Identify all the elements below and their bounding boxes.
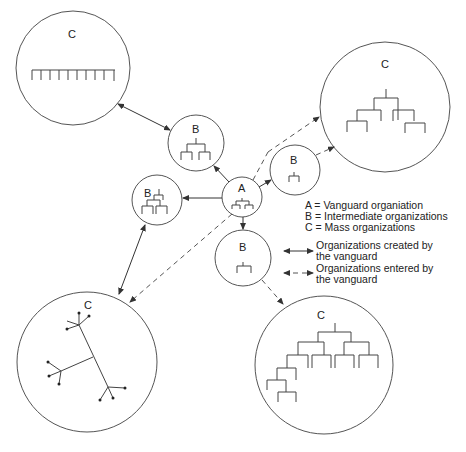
comb-structure [32,70,115,81]
b-bottom-circle [215,230,271,286]
b-top-label: B [192,123,199,135]
c-bottom-right-label: C [317,309,325,321]
c-bottom-left-circle [17,292,157,432]
legend-arrows: Organizations created by the vanguard Or… [316,240,433,286]
network-structure [47,312,127,402]
link-bleft-cbottomleft [119,225,145,294]
b-bottom-label: B [239,241,246,253]
dash-a-up [253,152,268,180]
b-left-label: B [144,187,151,199]
b-right-circle [270,145,320,195]
legend-dashed-line2: the vanguard [316,274,433,285]
b-top-tree [181,138,210,160]
link-a-btop [214,166,229,182]
legend-dashed-text: Organizations entered by the vanguard [316,263,433,285]
large-hierarchy-structure [267,323,378,402]
a-tree [232,198,253,209]
legend-keys: A = Vanguard organiation B = Intermediat… [305,200,448,233]
b-bottom-tree [237,262,251,273]
dash-bright-ctopright [316,147,334,155]
legend-solid-line2: the vanguard [316,251,433,262]
c-bottom-left-label: C [84,299,92,311]
legend-key-c: C = Mass organizations [305,222,448,233]
dash-a-ctopright [268,117,319,152]
a-label: A [238,182,246,194]
b-right-label: B [290,154,297,166]
dash-a-cbottomleft [130,214,232,302]
link-btop-ctopleft [118,104,170,130]
c-top-right-label: C [381,58,389,70]
b-right-tree [289,172,299,182]
hierarchy-structure [347,89,425,133]
dash-bbottom-cbottomright [262,280,283,304]
c-top-left-label: C [68,28,76,40]
legend-solid-text: Organizations created by the vanguard [316,240,433,262]
link-a-bright [259,180,271,187]
